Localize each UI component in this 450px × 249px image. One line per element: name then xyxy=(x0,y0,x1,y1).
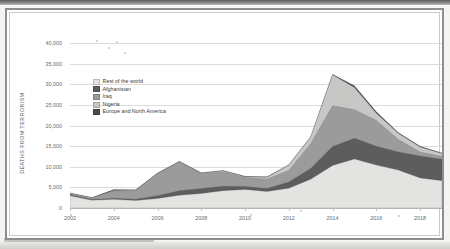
legend-item-label: Iraq xyxy=(103,93,112,101)
y-axis-tick-label: 10,000 xyxy=(22,164,62,170)
legend-swatch-icon xyxy=(93,94,100,100)
scan-speckle xyxy=(398,215,400,217)
x-axis-tick xyxy=(420,208,421,211)
y-axis-tick-label: 35,000 xyxy=(22,61,62,67)
legend-item[interactable]: Iraq xyxy=(93,93,166,101)
x-axis-tick xyxy=(158,208,159,211)
legend-item[interactable]: Nigeria xyxy=(93,101,166,109)
legend-item[interactable]: Afghanistan xyxy=(93,86,166,94)
chart-legend: Rest of the worldAfghanistanIraqNigeriaE… xyxy=(93,78,166,116)
y-axis-tick-label: 30,000 xyxy=(22,81,62,87)
y-axis-tick-label: 0 xyxy=(22,205,62,211)
y-axis-tick-label: 5,000 xyxy=(22,184,62,190)
x-axis-tick-label: 2016 xyxy=(370,215,382,221)
scan-speckle xyxy=(124,52,126,54)
chart-frame: DEATHS FROM TERRORISM 05,00010,00015,000… xyxy=(5,8,444,240)
x-axis-tick-label: 2018 xyxy=(414,215,426,221)
x-axis-tick xyxy=(201,208,202,211)
scan-speckle xyxy=(250,214,252,216)
x-axis-tick-label: 2010 xyxy=(239,215,251,221)
x-axis-tick xyxy=(245,208,246,211)
y-axis-tick-label: 25,000 xyxy=(22,102,62,108)
y-axis-tick-label: 40,000 xyxy=(22,40,62,46)
x-axis-tick xyxy=(289,208,290,211)
legend-item-label: Afghanistan xyxy=(103,86,131,94)
legend-item-label: Nigeria xyxy=(103,101,120,109)
x-axis-tick xyxy=(114,208,115,211)
x-axis-tick-label: 2014 xyxy=(327,215,339,221)
scan-speckle xyxy=(300,210,302,212)
legend-swatch-icon xyxy=(93,79,100,85)
y-axis-tick-label: 20,000 xyxy=(22,123,62,129)
legend-swatch-icon xyxy=(93,109,100,115)
legend-swatch-icon xyxy=(93,86,100,92)
scan-artifact-bottom-strip xyxy=(0,242,450,249)
y-axis-tick-label: 15,000 xyxy=(22,143,62,149)
axis-baseline xyxy=(70,208,442,209)
legend-item-label: Europe and North America xyxy=(103,108,167,116)
x-axis-tick xyxy=(333,208,334,211)
legend-swatch-icon xyxy=(93,102,100,108)
x-axis-tick-label: 2006 xyxy=(152,215,164,221)
stacked-area-series xyxy=(70,43,442,208)
x-axis-tick-label: 2012 xyxy=(283,215,295,221)
scan-speckle xyxy=(96,40,98,42)
legend-item-label: Rest of the world xyxy=(103,78,143,86)
x-axis-tick-label: 2008 xyxy=(195,215,207,221)
plot-area: 05,00010,00015,00020,00025,00030,00035,0… xyxy=(70,43,442,208)
x-axis-tick-label: 2004 xyxy=(108,215,120,221)
y-axis-title: DEATHS FROM TERRORISM xyxy=(15,68,29,198)
legend-item[interactable]: Rest of the world xyxy=(93,78,166,86)
legend-item[interactable]: Europe and North America xyxy=(93,108,166,116)
figure-page: DEATHS FROM TERRORISM 05,00010,00015,000… xyxy=(0,0,450,249)
scan-artifact-top-bar xyxy=(0,0,450,5)
scan-speckle xyxy=(116,41,118,43)
x-axis-tick xyxy=(376,208,377,211)
scan-speckle xyxy=(70,214,72,216)
x-axis-tick-label: 2002 xyxy=(64,215,76,221)
x-axis-tick xyxy=(70,208,71,211)
